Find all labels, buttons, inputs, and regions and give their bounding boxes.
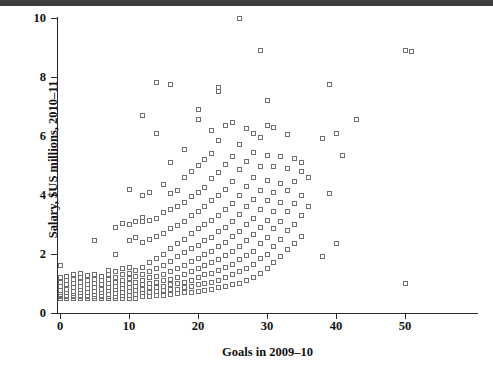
data-point (196, 256, 201, 261)
data-point (71, 285, 76, 290)
data-point (230, 262, 235, 267)
data-point (244, 126, 249, 131)
data-point (340, 153, 345, 158)
data-point (251, 216, 256, 221)
data-point (237, 193, 242, 198)
data-point (168, 277, 173, 282)
data-point (327, 82, 332, 87)
data-point (189, 194, 194, 199)
data-point (244, 253, 249, 258)
data-point (196, 266, 201, 271)
data-point (237, 281, 242, 286)
data-point (78, 275, 83, 280)
data-point (237, 269, 242, 274)
data-point (258, 241, 263, 246)
data-point (140, 272, 145, 277)
data-point (92, 277, 97, 282)
data-point (133, 268, 138, 273)
data-point (237, 257, 242, 262)
data-point (175, 223, 180, 228)
data-point (271, 260, 276, 265)
data-point (216, 257, 221, 262)
data-point (161, 231, 166, 236)
data-point (258, 48, 263, 53)
data-point (223, 207, 228, 212)
data-point (120, 282, 125, 287)
data-point (154, 234, 159, 239)
data-point (182, 200, 187, 205)
data-point (140, 219, 145, 224)
data-point (251, 275, 256, 280)
data-point (85, 282, 90, 287)
data-point (285, 247, 290, 252)
data-point (230, 120, 235, 125)
data-point (237, 142, 242, 147)
data-point (140, 278, 145, 283)
data-point (140, 287, 145, 292)
data-point (58, 263, 63, 268)
data-point (202, 204, 207, 209)
data-point (202, 238, 207, 243)
data-point (244, 204, 249, 209)
data-point (265, 178, 270, 183)
data-point (230, 154, 235, 159)
data-point (216, 268, 221, 273)
data-point (278, 237, 283, 242)
data-point (216, 285, 221, 290)
data-point (209, 176, 214, 181)
data-point (271, 209, 276, 214)
data-point (189, 246, 194, 251)
data-point (216, 138, 221, 143)
data-point (113, 275, 118, 280)
data-point (223, 265, 228, 270)
data-point (196, 275, 201, 280)
data-point (271, 164, 276, 169)
data-point (334, 131, 339, 136)
data-point (147, 218, 152, 223)
data-point (278, 219, 283, 224)
data-point (189, 169, 194, 174)
data-point (209, 271, 214, 276)
data-point (251, 249, 256, 254)
data-point (182, 237, 187, 242)
data-point (58, 280, 63, 285)
data-point (140, 282, 145, 287)
data-point (202, 157, 207, 162)
data-point (133, 274, 138, 279)
data-point (147, 294, 152, 299)
data-point (334, 241, 339, 246)
data-point (202, 272, 207, 277)
data-point (230, 201, 235, 206)
data-point (209, 198, 214, 203)
data-point (230, 282, 235, 287)
data-point (258, 256, 263, 261)
data-point (161, 263, 166, 268)
data-point (202, 263, 207, 268)
data-point (265, 252, 270, 257)
data-point (92, 285, 97, 290)
data-point (327, 191, 332, 196)
data-point-layer (0, 0, 493, 366)
data-point (168, 282, 173, 287)
data-point (244, 159, 249, 164)
data-point (161, 210, 166, 215)
data-point (292, 156, 297, 161)
data-point (216, 213, 221, 218)
data-point (223, 275, 228, 280)
data-point (306, 175, 311, 180)
data-point (147, 275, 152, 280)
data-point (127, 281, 132, 286)
data-point (237, 167, 242, 172)
data-point (265, 198, 270, 203)
data-point (71, 281, 76, 286)
data-point (154, 266, 159, 271)
data-point (140, 265, 145, 270)
data-point (85, 273, 90, 278)
data-point (175, 287, 180, 292)
plot-area: 0246810 01020304050 Salary, $US millions… (0, 0, 493, 366)
data-point (161, 293, 166, 298)
data-point (182, 290, 187, 295)
data-point (106, 268, 111, 273)
data-point (292, 222, 297, 227)
data-point (168, 160, 173, 165)
